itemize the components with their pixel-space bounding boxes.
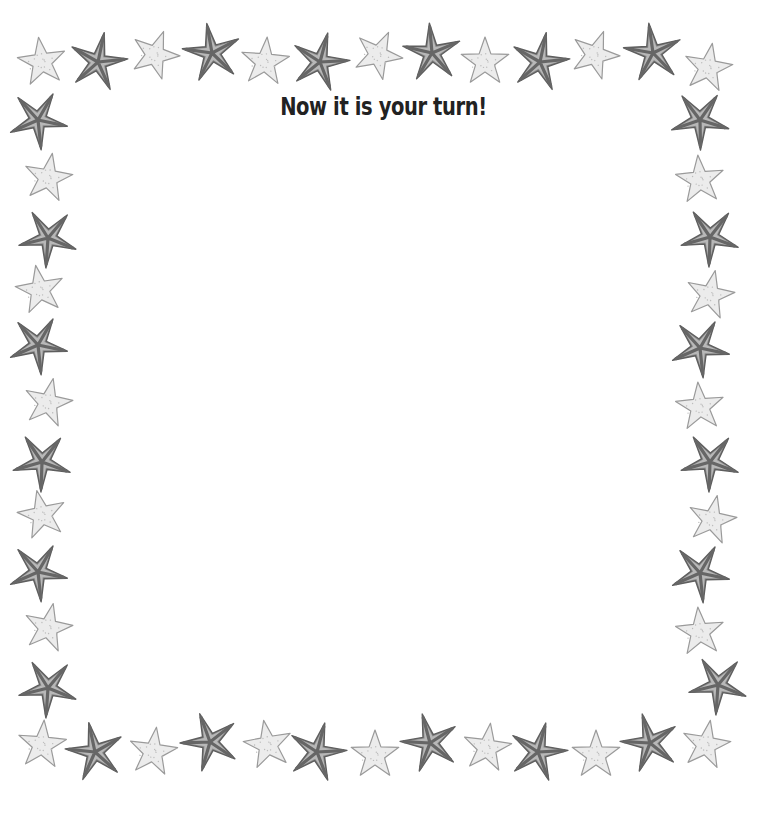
dark-starfish-icon — [7, 89, 69, 151]
dark-starfish-icon — [619, 712, 681, 774]
dark-starfish-icon — [181, 22, 243, 84]
light-starfish-icon — [344, 724, 406, 786]
dark-starfish-icon — [679, 431, 741, 493]
light-starfish-icon — [677, 37, 739, 99]
light-starfish-icon — [124, 24, 186, 86]
dark-starfish-icon — [509, 31, 571, 93]
light-starfish-icon — [454, 31, 516, 93]
dark-starfish-icon — [399, 712, 461, 774]
light-starfish-icon — [122, 721, 184, 783]
light-starfish-icon — [675, 714, 737, 776]
light-starfish-icon — [565, 724, 627, 786]
dark-starfish-icon — [17, 207, 79, 269]
light-starfish-icon — [237, 714, 299, 776]
light-starfish-icon — [9, 259, 71, 321]
light-starfish-icon — [11, 31, 73, 93]
dark-starfish-icon — [17, 657, 79, 719]
worksheet-page: Now it is your turn! — [0, 0, 770, 818]
light-starfish-icon — [17, 597, 79, 659]
light-starfish-icon — [234, 31, 296, 93]
dark-starfish-icon — [11, 431, 73, 493]
dark-starfish-icon — [7, 314, 69, 376]
dark-starfish-icon — [507, 721, 569, 783]
light-starfish-icon — [681, 489, 743, 551]
dark-starfish-icon — [7, 541, 69, 603]
dark-starfish-icon — [286, 721, 348, 783]
light-starfish-icon — [679, 264, 741, 326]
dark-starfish-icon — [64, 721, 126, 783]
light-starfish-icon — [11, 714, 73, 776]
dark-starfish-icon — [622, 22, 684, 84]
dark-starfish-icon — [67, 31, 129, 93]
page-title: Now it is your turn! — [83, 92, 684, 121]
light-starfish-icon — [17, 147, 79, 209]
light-starfish-icon — [456, 717, 518, 779]
light-starfish-icon — [564, 24, 626, 86]
dark-starfish-icon — [401, 22, 463, 84]
dark-starfish-icon — [687, 654, 749, 716]
light-starfish-icon — [11, 484, 73, 546]
dark-starfish-icon — [679, 206, 741, 268]
light-starfish-icon — [347, 24, 409, 86]
blank-writing-area — [80, 140, 680, 710]
light-starfish-icon — [17, 372, 79, 434]
dark-starfish-icon — [289, 31, 351, 93]
dark-starfish-icon — [179, 711, 241, 773]
